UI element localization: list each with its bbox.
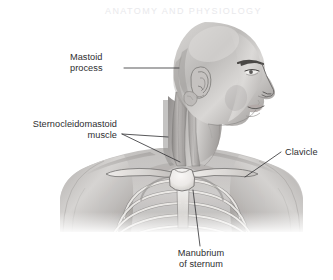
label-mastoid-process-line2: process — [70, 63, 103, 73]
manubrium-of-sternum — [169, 168, 194, 191]
label-sternocleidomastoid-line1: Sternocleidomastoid — [33, 119, 117, 129]
figure-bottom-fade — [0, 212, 333, 234]
scan-ghost-header: ANATOMY AND PHYSIOLOGY — [105, 6, 262, 16]
label-manubrium-line2: of sternum — [179, 259, 223, 269]
anatomy-illustration: ANATOMY AND PHYSIOLOGY — [0, 0, 333, 280]
label-sternocleidomastoid-line2: muscle — [88, 130, 117, 140]
leader-line-sternocleidomastoid-a — [122, 134, 168, 137]
label-mastoid-process-line1: Mastoid — [70, 52, 103, 62]
anatomy-figure: ANATOMY AND PHYSIOLOGY — [0, 0, 333, 280]
iris — [249, 70, 253, 74]
label-clavicle: Clavicle — [285, 147, 318, 157]
figure-body — [0, 20, 333, 250]
head-group — [173, 20, 275, 126]
label-manubrium-line1: Manubrium — [178, 248, 225, 258]
